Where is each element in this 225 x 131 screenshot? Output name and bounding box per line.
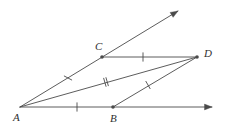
- segment-AD: [20, 57, 197, 107]
- ray-AC-arrowhead: [170, 11, 178, 17]
- vertex-label-d: D: [204, 48, 212, 59]
- tick-marks-group: [64, 53, 150, 111]
- segment-BD: [113, 57, 197, 107]
- tick-AD-stroke: [104, 78, 106, 86]
- segments-group: [20, 57, 197, 107]
- geometry-figure: ABCD: [0, 0, 225, 131]
- vertex-label-c: C: [95, 41, 102, 52]
- vertex-dots-group: [100, 55, 199, 109]
- vertex-label-b: B: [110, 113, 117, 124]
- vertex-dot-d: [195, 55, 199, 59]
- vertex-dot-b: [111, 105, 115, 109]
- vertex-label-a: A: [13, 112, 20, 123]
- tick-AD-stroke: [106, 78, 108, 86]
- vertex-dot-c: [100, 55, 104, 59]
- ray-AC: [20, 11, 178, 107]
- tick-AD: [104, 78, 109, 87]
- ray-AB-arrowhead: [205, 104, 213, 110]
